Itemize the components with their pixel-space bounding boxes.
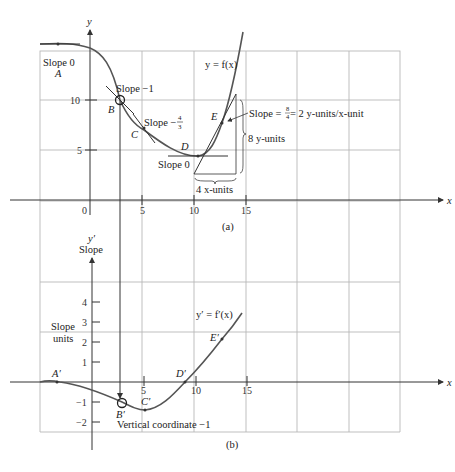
x-tick-b-15: 15 [242,385,252,396]
y-axis-label-b: y′ [87,233,96,244]
x-tick-15: 15 [241,205,251,216]
label-a-slope: Slope 0 [43,57,75,68]
y-tick-2: 2 [82,337,87,348]
y-tick-neg1: −1 [76,397,87,408]
label-e-prime: E′ [209,332,219,343]
c-frac-num: 4 [178,114,182,122]
label-c-prime: C′ [141,396,151,407]
label-c: C [131,129,139,140]
caption-a: (a) [222,221,234,233]
x-tick-0: 0 [82,205,87,216]
x-axis-label-b: x [446,377,452,388]
panel-b-grid [40,282,400,432]
c-frac-den: 3 [178,123,182,131]
units-label-line2: units [53,333,73,344]
label-b-slope: Slope −1 [116,83,154,94]
label-e-slope-prefix: Slope = [249,108,282,119]
label-a: A [54,68,62,79]
panel-a-grid [40,51,400,201]
e-frac-num: 8 [286,105,289,112]
caption-b: (b) [226,439,239,451]
run-label: 4 x-units [196,184,233,195]
rise-brace [240,100,246,173]
derivative-figure: y x 10 5 0 5 10 15 (a) Slope 0 A Slope −… [0,0,455,472]
y-tick-5: 5 [77,145,82,156]
y-tick-10: 10 [70,95,80,106]
x-tick-b-10: 10 [191,385,201,396]
label-e: E [210,111,218,122]
label-c-slope: Slope − [144,117,177,128]
units-label-line1: Slope [51,321,75,332]
panel-b-axes [10,258,443,450]
curve-f-label: y = f(x) [205,59,238,71]
y-axis-label-a: y [86,16,92,27]
curve-f-prime-label: y′ = f′(x) [196,309,233,321]
y-tick-3: 3 [82,317,87,328]
y-tick-1: 1 [82,357,87,368]
label-e-slope-suffix: = 2 y-units/x-unit [290,108,364,119]
y-tick-4: 4 [82,297,87,308]
label-a-prime: A′ [51,368,61,379]
label-b: B [108,104,115,115]
b-prime-annotation: Vertical coordinate −1 [117,419,210,430]
y-axis-sublabel-b: Slope [79,244,103,255]
x-axis-label-a: x [446,195,452,206]
y-tick-neg2: −2 [76,417,87,428]
x-tick-b-5: 5 [141,385,146,396]
e-pointer-arrow [228,113,248,121]
rise-label: 8 y-units [248,133,285,144]
label-d-prime: D′ [175,368,187,379]
tangent-e [194,94,236,174]
label-d-slope: Slope 0 [158,159,190,170]
x-tick-5: 5 [140,205,145,216]
label-d: D [180,141,189,152]
x-tick-10: 10 [189,205,199,216]
